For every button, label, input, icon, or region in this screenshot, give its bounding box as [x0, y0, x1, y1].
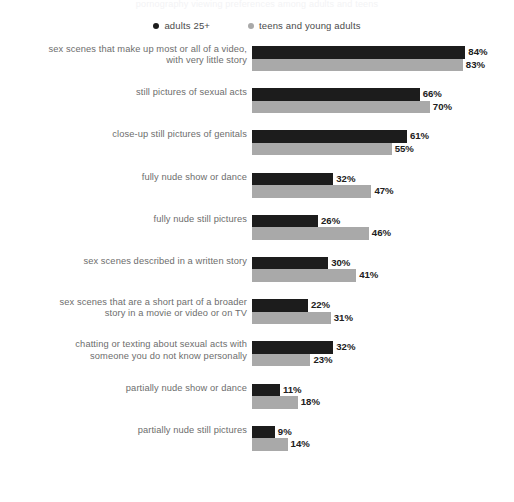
bar-pair: 11%18%: [252, 382, 514, 409]
bar-value-label: 22%: [311, 299, 330, 312]
cropped-title-remnant: pornography viewing preferences among ad…: [0, 0, 514, 9]
plot-area: sex scenes that make up most or all of a…: [0, 44, 514, 496]
category-label: sex scenes described in a written story: [0, 255, 252, 267]
bar-group: partially nude still pictures9%14%: [0, 424, 514, 466]
bar-teens: [252, 227, 369, 240]
bar-value-label: 41%: [359, 269, 378, 282]
category-label: close-up still pictures of genitals: [0, 128, 252, 140]
bar-value-label: 32%: [336, 173, 355, 186]
bar-row: 41%: [252, 269, 514, 282]
bar-pair: 84%83%: [252, 44, 514, 71]
bar-value-label: 84%: [468, 46, 487, 59]
bar-value-label: 32%: [336, 341, 355, 354]
bar-pair: 32%23%: [252, 339, 514, 366]
bar-row: 14%: [252, 438, 514, 451]
bar-adults: [252, 426, 275, 439]
bar-value-label: 31%: [334, 312, 353, 325]
bar-adults: [252, 299, 308, 312]
bar-row: 9%: [252, 426, 514, 439]
bar-value-label: 23%: [313, 354, 332, 367]
bar-row: 32%: [252, 173, 514, 186]
bar-row: 84%: [252, 46, 514, 59]
bar-row: 23%: [252, 354, 514, 367]
bar-group: sex scenes described in a written story3…: [0, 255, 514, 297]
bar-teens: [252, 354, 310, 367]
bar-group: sex scenes that make up most or all of a…: [0, 44, 514, 86]
bar-group: fully nude show or dance32%47%: [0, 171, 514, 213]
bar-pair: 9%14%: [252, 424, 514, 451]
bar-row: 22%: [252, 299, 514, 312]
bar-row: 46%: [252, 227, 514, 240]
bar-row: 31%: [252, 312, 514, 325]
category-label: still pictures of sexual acts: [0, 86, 252, 98]
bar-row: 26%: [252, 215, 514, 228]
bar-adults: [252, 215, 318, 228]
bar-value-label: 30%: [331, 257, 350, 270]
bar-row: 55%: [252, 143, 514, 156]
bar-pair: 30%41%: [252, 255, 514, 282]
category-label: partially nude still pictures: [0, 424, 252, 436]
bar-adults: [252, 46, 465, 59]
bar-row: 30%: [252, 257, 514, 270]
bar-adults: [252, 88, 420, 101]
bar-group: fully nude still pictures26%46%: [0, 213, 514, 255]
bar-adults: [252, 173, 333, 186]
bar-row: 47%: [252, 185, 514, 198]
bar-teens: [252, 101, 430, 114]
legend-label-adults: adults 25+: [164, 20, 210, 31]
bar-adults: [252, 130, 407, 143]
bar-group: still pictures of sexual acts66%70%: [0, 86, 514, 128]
bar-pair: 26%46%: [252, 213, 514, 240]
bar-row: 70%: [252, 101, 514, 114]
category-label: fully nude show or dance: [0, 171, 252, 183]
bar-value-label: 46%: [372, 227, 391, 240]
bar-value-label: 70%: [433, 101, 452, 114]
bar-group: chatting or texting about sexual acts wi…: [0, 339, 514, 381]
bar-teens: [252, 438, 288, 451]
bar-row: 61%: [252, 130, 514, 143]
bar-group: close-up still pictures of genitals61%55…: [0, 128, 514, 170]
chart-legend: adults 25+ teens and young adults: [0, 20, 514, 31]
bar-pair: 66%70%: [252, 86, 514, 113]
bar-adults: [252, 257, 328, 270]
legend-label-teens: teens and young adults: [259, 20, 361, 31]
bar-teens: [252, 185, 371, 198]
bar-value-label: 83%: [466, 59, 485, 72]
bar-value-label: 61%: [410, 130, 429, 143]
bar-group: sex scenes that are a short part of a br…: [0, 297, 514, 339]
bar-value-label: 11%: [283, 384, 302, 397]
legend-item-teens: teens and young adults: [248, 20, 361, 31]
legend-item-adults: adults 25+: [153, 20, 210, 31]
bar-pair: 22%31%: [252, 297, 514, 324]
bar-value-label: 18%: [301, 396, 320, 409]
category-label: fully nude still pictures: [0, 213, 252, 225]
category-label: partially nude show or dance: [0, 382, 252, 394]
bar-teens: [252, 312, 331, 325]
category-label: sex scenes that are a short part of a br…: [0, 297, 252, 319]
bar-value-label: 66%: [423, 88, 442, 101]
bar-value-label: 26%: [321, 215, 340, 228]
bar-row: 32%: [252, 341, 514, 354]
bar-adults: [252, 384, 280, 397]
bar-row: 66%: [252, 88, 514, 101]
category-label: sex scenes that make up most or all of a…: [0, 44, 252, 66]
bar-row: 11%: [252, 384, 514, 397]
legend-dot-light-icon: [248, 23, 254, 29]
bar-row: 18%: [252, 396, 514, 409]
category-label: chatting or texting about sexual acts wi…: [0, 339, 252, 361]
bar-chart: pornography viewing preferences among ad…: [0, 0, 514, 502]
bar-adults: [252, 341, 333, 354]
bar-teens: [252, 269, 356, 282]
bar-value-label: 9%: [278, 426, 292, 439]
bar-value-label: 14%: [291, 438, 310, 451]
legend-dot-dark-icon: [153, 23, 159, 29]
bar-teens: [252, 59, 463, 72]
bar-value-label: 55%: [395, 143, 414, 156]
bar-row: 83%: [252, 59, 514, 72]
bar-value-label: 47%: [374, 185, 393, 198]
bar-teens: [252, 396, 298, 409]
bar-group: partially nude show or dance11%18%: [0, 382, 514, 424]
bar-pair: 61%55%: [252, 128, 514, 155]
bar-teens: [252, 143, 392, 156]
bar-pair: 32%47%: [252, 171, 514, 198]
